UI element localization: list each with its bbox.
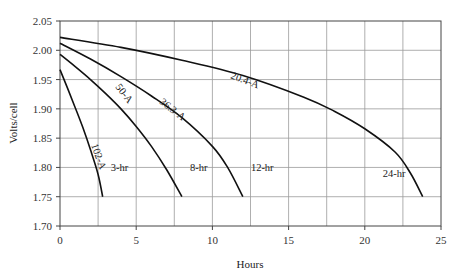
x-tick-label: 20 <box>359 234 371 246</box>
x-axis-label: Hours <box>237 258 264 270</box>
y-tick-label: 1.90 <box>33 103 53 115</box>
curve-name-label: 50-A <box>113 81 135 105</box>
x-tick-label: 5 <box>133 234 139 246</box>
curves <box>60 37 423 196</box>
curve-36.3-A <box>60 43 243 196</box>
curve-end-label: 3-hr <box>111 162 129 173</box>
curve-end-label: 8-hr <box>190 162 208 173</box>
curve-102-A <box>60 70 103 197</box>
x-tick-label: 0 <box>57 234 63 246</box>
x-axis-ticks: 0510152025 <box>57 226 447 246</box>
y-tick-label: 1.80 <box>33 161 53 173</box>
y-tick-label: 1.75 <box>33 191 53 203</box>
y-axis-ticks: 1.701.751.801.851.901.952.002.05 <box>33 15 60 232</box>
y-tick-label: 1.85 <box>33 132 53 144</box>
discharge-chart: 1.701.751.801.851.901.952.002.05 0510152… <box>0 0 457 275</box>
x-tick-label: 10 <box>207 234 219 246</box>
x-tick-label: 15 <box>283 234 295 246</box>
y-tick-label: 1.70 <box>33 220 53 232</box>
curve-end-label: 12-hr <box>251 162 274 173</box>
curve-name-label: 36.3-A <box>158 96 188 123</box>
y-tick-label: 2.05 <box>33 15 53 27</box>
curve-end-label: 24-hr <box>383 168 406 179</box>
curve-20.4-A <box>60 37 423 196</box>
y-tick-label: 1.95 <box>33 74 53 86</box>
x-tick-label: 25 <box>436 234 448 246</box>
y-axis-label: Volts/cell <box>7 102 19 143</box>
grid-lines <box>60 21 441 226</box>
y-tick-label: 2.00 <box>33 44 53 56</box>
curve-name-label: 20.4-A <box>229 70 261 91</box>
